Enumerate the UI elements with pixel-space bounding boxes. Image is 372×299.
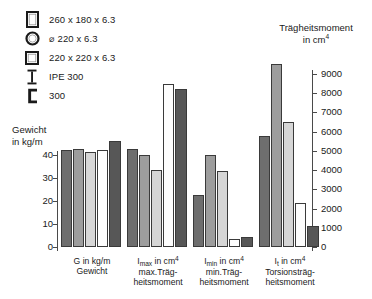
left-axis-tick-label: 40	[23, 150, 53, 160]
left-axis-tick	[53, 201, 58, 202]
right-axis-line	[312, 70, 313, 251]
right-axis-tick-label: 7000	[321, 107, 361, 117]
bar	[229, 239, 240, 247]
bar	[307, 226, 318, 247]
bar	[85, 152, 96, 247]
bar	[295, 203, 306, 247]
right-axis-tick	[312, 209, 317, 210]
right-axis-tick-label: 1000	[321, 223, 361, 233]
bar	[109, 141, 120, 247]
bar	[205, 155, 216, 247]
bar	[73, 149, 84, 247]
right-axis-tick-label: 5000	[321, 146, 361, 156]
bar	[97, 150, 108, 247]
bar	[175, 89, 186, 247]
right-axis-tick	[312, 132, 317, 133]
left-axis-tick-label: 0	[23, 242, 53, 252]
left-axis-tick	[53, 155, 58, 156]
bar	[271, 64, 282, 247]
x-axis-group-label-line2: Torsionsträg-	[251, 267, 329, 277]
right-axis-tick-label: 3000	[321, 184, 361, 194]
bar	[283, 122, 294, 247]
right-axis-tick	[312, 74, 317, 75]
right-axis-tick-label: 9000	[321, 69, 361, 79]
bar	[217, 171, 228, 247]
bar	[61, 150, 72, 248]
right-axis-tick	[312, 151, 317, 152]
bar	[241, 237, 252, 247]
bar	[127, 149, 138, 247]
left-axis-tick-label: 10	[23, 219, 53, 229]
left-axis-tick-label: 20	[23, 196, 53, 206]
bar	[139, 155, 150, 247]
right-axis-tick	[312, 189, 317, 190]
x-axis-group-label-line3: heitsmoment	[251, 277, 329, 287]
right-axis-tick	[312, 93, 317, 94]
right-axis-tick-label: 2000	[321, 204, 361, 214]
chart-plot-area: 0102030400100020003000400050006000700080…	[0, 0, 372, 299]
x-axis-group-label: It in cm4Torsionsträg-heitsmoment	[251, 256, 329, 288]
bar	[193, 195, 204, 247]
left-axis-tick	[53, 178, 58, 179]
right-axis-tick	[312, 170, 317, 171]
left-axis-tick-label: 30	[23, 173, 53, 183]
right-axis-tick-label: 8000	[321, 88, 361, 98]
right-axis-tick-label: 0	[321, 242, 361, 252]
right-axis-tick-label: 6000	[321, 127, 361, 137]
left-axis-tick	[53, 247, 58, 248]
bar	[163, 84, 174, 247]
right-axis-tick-label: 4000	[321, 165, 361, 175]
left-axis-tick	[53, 224, 58, 225]
bar	[259, 136, 270, 248]
bar	[151, 170, 162, 247]
x-axis-group-label-line1: It in cm4	[251, 256, 329, 267]
right-axis-tick	[312, 112, 317, 113]
right-axis-tick	[312, 247, 317, 248]
